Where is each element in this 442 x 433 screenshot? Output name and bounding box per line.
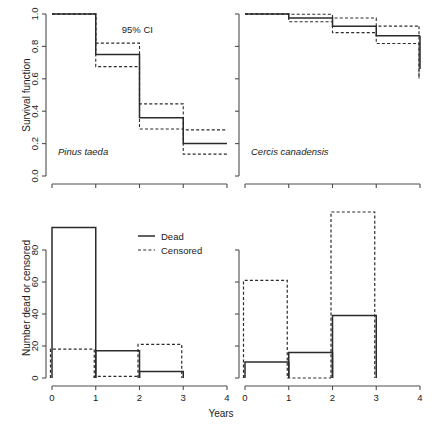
legend-dead-label: Dead [161,231,184,242]
figure-canvas: 0.00.20.40.60.81.0Survival functionPinus… [0,0,442,433]
survival-y-axis-title: Survival function [21,58,32,131]
species-label-pinus: Pinus taeda [58,146,108,157]
pinus-counts-censored-bar [51,349,95,378]
panel-bottom-left-x-tick-label: 4 [224,392,229,403]
x-axis-title: Years [208,408,233,419]
panel-top-left-y-tick-label: 0.2 [29,137,40,150]
panel-top-left-y-tick-label: 0.0 [29,169,40,182]
cercis-counts-dead-bar [289,352,333,378]
panel-bottom-left-x-tick-label: 0 [49,392,54,403]
cercis-counts-censored-bar [244,280,288,378]
survival-figure: 0.00.20.40.60.81.0Survival functionPinus… [0,0,442,433]
pinus-survival-ci-line [52,14,227,154]
cercis-counts-dead-bar [245,362,289,378]
cercis-counts-dead-bar [333,316,377,378]
panel-bottom-right-x-tick-label: 3 [374,392,379,403]
cercis-counts-censored-bar [331,212,375,378]
panel-top-left-y-tick-label: 0.8 [29,40,40,53]
panel-bottom-left-x-tick-label: 3 [181,392,186,403]
pinus-counts-dead-bar [96,351,140,378]
ci-annotation: 95% CI [122,24,153,35]
pinus-counts-censored-bar [138,344,182,378]
panel-bottom-right-x-tick-label: 2 [330,392,335,403]
panel-bottom-right-x-tick-label: 0 [242,392,247,403]
counts-y-axis-title: Number dead or censored [21,240,32,356]
panel-bottom-right-x-tick-label: 4 [417,392,422,403]
pinus-counts-dead-bar [140,372,184,378]
panel-bottom-left-y-tick-label: 0 [29,375,40,380]
panel-top-left-y-tick-label: 1.0 [29,7,40,20]
pinus-counts-censored-bar [94,376,138,378]
pinus-counts-dead-bar [52,228,96,378]
panel-bottom-left-x-tick-label: 2 [137,392,142,403]
legend-censored-label: Censored [161,245,202,256]
panel-bottom-right-x-tick-label: 1 [286,392,291,403]
species-label-cercis: Cercis canadensis [251,146,329,157]
panel-bottom-left-x-tick-label: 1 [93,392,98,403]
